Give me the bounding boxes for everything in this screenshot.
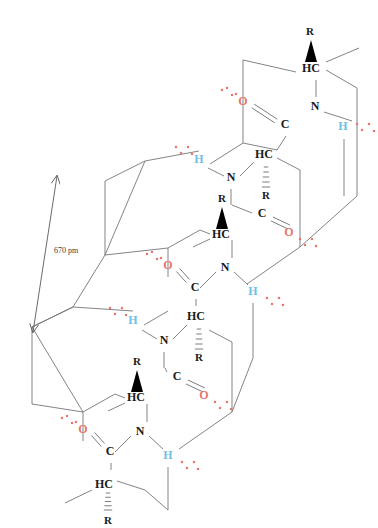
lone-pair-dot	[226, 87, 229, 90]
stereo-wedge-bond	[131, 370, 143, 392]
atom-label-alpha-carbon: HC	[187, 309, 205, 323]
bond-line	[234, 272, 248, 285]
atom-label-nitrogen: N	[160, 333, 169, 347]
atom-label-alpha-carbon: HC	[127, 390, 145, 404]
bond-line	[149, 436, 163, 449]
lone-pair-dot	[75, 421, 78, 424]
lone-pair-dot	[121, 307, 124, 310]
atom-label-sidechain: R	[306, 25, 315, 37]
bond-line	[32, 404, 83, 412]
atom-label-sidechain: R	[133, 355, 142, 367]
bond-line	[208, 168, 224, 176]
atom-label-sidechain: R	[218, 192, 227, 204]
bond-line	[277, 136, 286, 150]
lone-pair-dot	[151, 251, 154, 254]
lone-pair-dot	[271, 303, 274, 306]
lone-pair-dot	[299, 238, 302, 241]
bond-line	[232, 205, 252, 213]
lone-pair-dot	[175, 146, 178, 149]
lone-pair-dot	[180, 152, 183, 155]
atom-label-alpha-carbon: HC	[302, 61, 320, 75]
lone-pair-dot	[193, 461, 196, 464]
double-bond-line-b	[176, 271, 186, 282]
lone-pair-dot	[125, 314, 128, 317]
atom-label-alpha-carbon: HC	[255, 147, 273, 161]
double-bond-line-b	[91, 435, 101, 446]
lone-pair-dot	[146, 253, 149, 256]
bond-line	[232, 358, 253, 412]
atom-label-carbonyl-oxygen: O	[238, 94, 247, 108]
atom-label-nitrogen: N	[311, 99, 320, 113]
atom-label-sidechain: R	[262, 189, 271, 201]
alpha-helix-structure-figure: 670 pm RHCNHOCHHCNRRHCCOOCNHHHCNRRHCCOOC…	[0, 0, 378, 528]
atom-label-nitrogen: N	[227, 170, 236, 184]
bond-line	[210, 143, 243, 164]
bond-line	[115, 394, 125, 398]
bond-line	[83, 394, 115, 412]
lone-pair-dot	[235, 93, 238, 96]
lone-pair-dot	[278, 297, 281, 300]
atom-label-carbonyl-carbon: C	[258, 206, 267, 220]
bond-line	[300, 196, 357, 247]
stereo-wedge-bond	[216, 207, 228, 229]
lone-pair-dot	[191, 153, 194, 156]
double-bond-line-a	[180, 269, 190, 280]
bond-line	[243, 60, 296, 72]
atom-label-carbonyl-carbon: C	[281, 117, 290, 131]
atom-label-nitrogen: N	[136, 424, 145, 438]
atom-label-carbonyl-oxygen: O	[78, 422, 87, 436]
bond-line	[179, 412, 232, 449]
double-bond-line-a	[95, 433, 105, 444]
bond-line	[209, 330, 232, 342]
lone-pair-dot	[181, 461, 184, 464]
structure-canvas: 670 pm RHCNHOCHHCNRRHCCOOCNHHHCNRRHCCOOC…	[0, 0, 378, 528]
atom-label-alpha-carbon: HC	[212, 227, 230, 241]
dimension-label: 670 pm	[54, 246, 79, 255]
bond-line	[32, 307, 73, 327]
lone-pair-dot	[356, 123, 359, 126]
atom-label-amide-hydrogen: H	[248, 284, 258, 298]
atom-label-alpha-carbon: HC	[95, 477, 113, 491]
lone-pair-dot	[368, 123, 371, 126]
lone-pair-dot	[226, 401, 229, 404]
atom-label-carbonyl-carbon: C	[191, 280, 200, 294]
bond-line	[326, 48, 359, 62]
bond-line	[173, 325, 187, 339]
stereo-wedge-bond	[305, 40, 317, 62]
dimension-layer: 670 pm	[33, 176, 79, 332]
lone-pair-dot	[187, 146, 190, 149]
atom-label-carbonyl-carbon: C	[106, 444, 115, 458]
bond-line	[144, 311, 168, 325]
lone-pair-dot	[214, 401, 217, 404]
lone-pair-layer	[61, 87, 376, 471]
bond-line	[277, 158, 300, 170]
bond-line	[73, 255, 105, 307]
lone-pair-dot	[282, 304, 285, 307]
lone-pair-dot	[61, 417, 64, 420]
bond-line	[105, 161, 145, 181]
atom-label-sidechain: R	[104, 514, 113, 526]
atom-label-carbonyl-oxygen: O	[284, 225, 293, 239]
lone-pair-dot	[361, 129, 364, 132]
bond-line	[326, 70, 357, 88]
lone-pair-dot	[304, 244, 307, 247]
lone-pair-dot	[197, 468, 200, 471]
lone-pair-dot	[266, 297, 269, 300]
bond-line	[108, 403, 125, 411]
atom-label-sidechain: R	[195, 351, 204, 363]
bond-line	[240, 162, 254, 176]
lone-pair-dot	[231, 94, 234, 97]
atom-label-amide-hydrogen: H	[128, 313, 138, 327]
lone-pair-dot	[311, 238, 314, 241]
lone-pair-dot	[186, 467, 189, 470]
lone-pair-dot	[221, 89, 224, 92]
lone-pair-dot	[71, 422, 74, 425]
bond-line	[200, 272, 216, 288]
atom-label-carbonyl-carbon: C	[173, 369, 182, 383]
bond-line	[142, 330, 157, 339]
bond-line	[73, 307, 133, 311]
bond-line	[200, 230, 210, 234]
bond-line	[65, 490, 92, 503]
bond-line	[117, 481, 145, 490]
bond-line	[247, 247, 300, 284]
